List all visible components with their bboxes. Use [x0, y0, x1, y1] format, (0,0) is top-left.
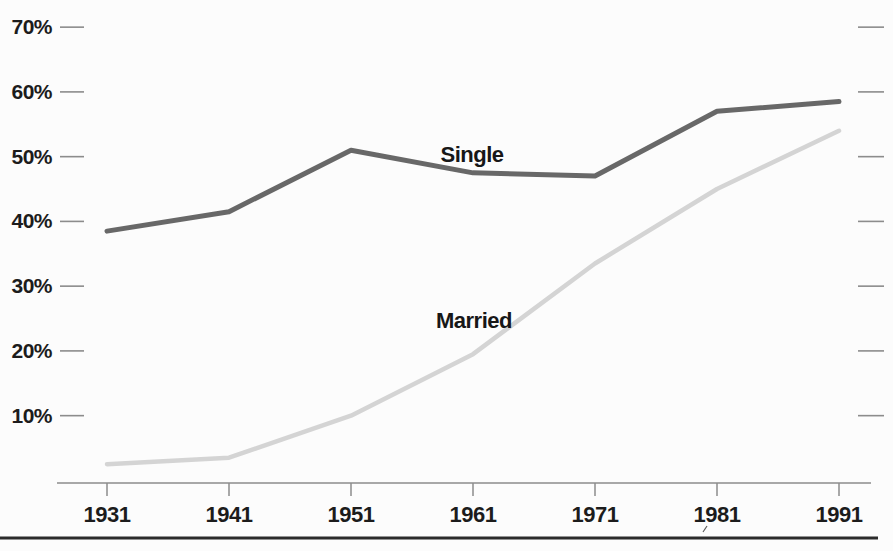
x-tick-label: 1931: [84, 502, 131, 527]
x-tick-label: 1991: [816, 502, 863, 527]
marital-status-line-chart: 70%60%50%40%30%20%10%1931194119511961197…: [0, 0, 893, 551]
y-tick-label: 70%: [11, 15, 52, 38]
chart-page: 70%60%50%40%30%20%10%1931194119511961197…: [0, 0, 893, 551]
x-tick-label: 1981: [694, 502, 741, 527]
x-tick-label: 1941: [206, 502, 253, 527]
x-tick-label: 1961: [450, 502, 497, 527]
y-tick-label: 50%: [11, 145, 52, 168]
y-tick-label: 60%: [11, 80, 52, 103]
y-tick-label: 40%: [11, 209, 52, 232]
married-line: [107, 131, 839, 464]
x-tick-label: 1971: [572, 502, 619, 527]
single-series-label: Single: [440, 142, 503, 167]
y-tick-label: 30%: [11, 274, 52, 297]
x-tick-label: 1951: [328, 502, 375, 527]
married-series-label: Married: [436, 308, 512, 333]
y-tick-label: 10%: [11, 404, 52, 427]
y-tick-label: 20%: [11, 339, 52, 362]
